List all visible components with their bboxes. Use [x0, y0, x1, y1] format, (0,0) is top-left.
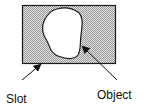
slot-label: Slot — [6, 93, 27, 105]
object-label: Object — [97, 89, 132, 101]
slot-arrow — [22, 65, 40, 80]
